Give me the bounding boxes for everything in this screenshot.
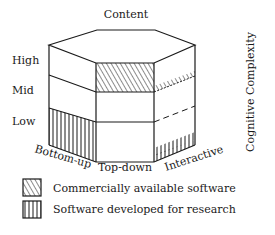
face-topdown-label: Top-down [98,161,152,174]
level-low-label: Low [12,115,36,128]
legend-commercial-swatch [23,179,41,196]
content-label: Content [104,8,149,21]
commercial-interactive-hatch [154,71,195,92]
legend-commercial-label: Commercially available software [53,182,236,195]
legend-research-swatch [23,201,41,218]
legend: Commercially available software Software… [23,179,236,218]
mid-low-divider-interactive [154,106,195,122]
level-mid-label: Mid [12,84,34,97]
legend-research-label: Software developed for research [53,203,236,216]
commercial-hatch [96,63,154,92]
cognitive-complexity-label: Cognitive Complexity [244,31,257,152]
content-complexity-diagram: Content High Mid Low Bottom-up Top-down … [0,0,275,235]
level-high-label: High [12,54,39,67]
hexagon-top-face [49,30,195,63]
